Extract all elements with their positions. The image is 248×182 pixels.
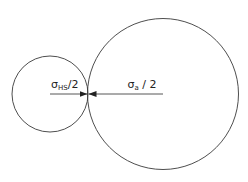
large-radius-label: σa / 2 [110,78,167,92]
small-radius-label: σHS/2 [51,78,78,92]
tangent-circles-diagram: σHS/2 σa / 2 [0,0,248,182]
